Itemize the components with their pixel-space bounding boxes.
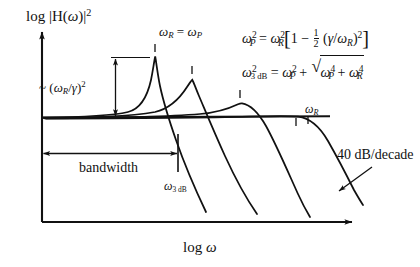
eq1-bracket-close: ]: [362, 27, 369, 49]
label-rolloff: 40 dB/decade: [337, 148, 414, 162]
label-omega-r-right: ωR: [305, 103, 318, 117]
eq1-frac-denominator: 2: [314, 38, 319, 50]
amplitude-exponent: 2: [81, 79, 85, 89]
x-axis-label: log ω: [183, 240, 217, 255]
x-axis-label-prefix: log: [183, 239, 206, 255]
eq1-fraction-one-half: 12: [314, 28, 319, 50]
amplitude-omega: ω: [54, 80, 63, 95]
figure-container: log |H(ω)|2 log ω ωR = ωP ~ (ωR/γ)2 band…: [0, 0, 420, 267]
y-axis-label-exponent: 2: [86, 7, 91, 18]
sqrt-bar: [320, 55, 365, 56]
amplitude-tilde: ~: [39, 80, 46, 95]
peak-equality-sub-2: P: [197, 30, 202, 40]
equation-omega-p: ω2P = ω2R[1 − 12 (γ/ωR)2]: [242, 22, 369, 56]
peak-equality-omega-1: ω: [159, 24, 168, 39]
eq1-one: 1: [291, 31, 298, 46]
label-amplitude: ~ (ωR/γ)2: [39, 80, 86, 96]
eq1-bracket-open: [: [284, 27, 291, 49]
y-axis-label: log |H(ω)|2: [26, 8, 91, 24]
label-peak-equality: ωR = ωP: [159, 25, 202, 40]
eq1-omega-inner: ω: [337, 31, 347, 46]
omega-r-right-sub: R: [313, 108, 318, 117]
y-axis-label-prefix: log |H(: [26, 8, 68, 24]
equation-block: ω2P = ω2R[1 − 12 (γ/ωR)2] ω23 dB = ω2P +…: [242, 22, 369, 89]
eq2-lhs-sub: 3 dB: [251, 71, 268, 81]
response-curve-2: [44, 80, 257, 214]
x-axis-label-omega: ω: [206, 239, 217, 255]
label-bandwidth: bandwidth: [79, 161, 138, 175]
omega-3db-sub: 3 dB: [172, 185, 186, 194]
equation-omega-3db: ω23 dB = ω2P + ω4P + ω4R: [242, 56, 369, 90]
eq1-minus: −: [301, 31, 309, 46]
eq2-square-root: ω4P + ω4R: [312, 56, 365, 90]
eq1-frac-numerator: 1: [314, 28, 319, 39]
eq2-plus-outer: +: [299, 65, 307, 80]
eq1-equals: =: [259, 31, 267, 46]
label-omega-3db: ω3 dB: [164, 180, 187, 193]
peak-equality-omega-2: ω: [187, 24, 196, 39]
eq2-equals: =: [271, 65, 279, 80]
eq2-root2-sub: R: [357, 71, 363, 81]
y-axis-label-omega: ω: [68, 8, 79, 24]
